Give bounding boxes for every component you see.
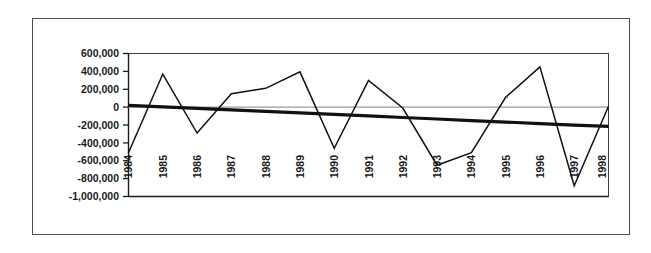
y-tick-label: -600,000 bbox=[78, 154, 120, 166]
x-tick-label: 1991 bbox=[363, 155, 375, 179]
x-tick-label: 1992 bbox=[397, 155, 409, 179]
x-tick-label: 1995 bbox=[500, 155, 512, 179]
y-tick-label: 400,000 bbox=[81, 65, 119, 77]
y-tick-label: 600,000 bbox=[81, 47, 119, 59]
x-tick-label: 1988 bbox=[260, 155, 272, 179]
x-tick-label: 1985 bbox=[157, 155, 169, 179]
y-tick-label: 0 bbox=[113, 101, 119, 113]
y-tick-label: -400,000 bbox=[78, 137, 120, 149]
trend-series-line bbox=[129, 105, 609, 126]
y-tick-label: -200,000 bbox=[78, 119, 120, 131]
x-axis-labels: 1984 1985 1986 1987 1988 1989 1990 1991 … bbox=[122, 155, 608, 179]
x-tick-label: 1986 bbox=[191, 155, 203, 179]
x-tick-label: 1996 bbox=[534, 155, 546, 179]
chart-screenshot: 600,000 400,000 200,000 0 -200,000 -400,… bbox=[0, 0, 651, 253]
y-tick-label: -1,000,000 bbox=[69, 190, 119, 202]
x-tick-label: 1994 bbox=[465, 155, 477, 179]
x-tick-label: 1984 bbox=[122, 155, 134, 179]
x-tick-label: 1987 bbox=[225, 155, 237, 179]
y-tick-label: 200,000 bbox=[81, 83, 119, 95]
scan-speck bbox=[506, 96, 508, 98]
y-tick-label: -800,000 bbox=[78, 172, 120, 184]
x-tick-label: 1989 bbox=[294, 155, 306, 179]
x-tick-label: 1998 bbox=[596, 155, 608, 179]
line-chart-plot: 600,000 400,000 200,000 0 -200,000 -400,… bbox=[0, 0, 651, 253]
x-tick-label: 1990 bbox=[328, 155, 340, 179]
y-axis-labels: 600,000 400,000 200,000 0 -200,000 -400,… bbox=[69, 47, 119, 202]
